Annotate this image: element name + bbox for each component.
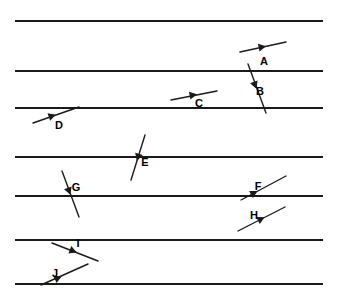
segment-label: I [76, 237, 79, 249]
segment-c: C [171, 91, 217, 109]
segment-label: B [256, 85, 264, 97]
direction-arrowhead-icon [49, 114, 55, 119]
segment-label: A [260, 55, 268, 67]
segment-d: D [33, 107, 79, 131]
segment-label: E [141, 156, 148, 168]
segment-line [41, 264, 88, 285]
direction-arrowhead-icon [69, 247, 75, 252]
direction-arrowhead-icon [257, 218, 263, 223]
direction-arrowhead-icon [259, 45, 265, 51]
segment-label: J [52, 267, 58, 279]
direction-arrowhead-icon [65, 187, 70, 193]
figure-canvas: ABCDEFGHIJ [0, 0, 339, 300]
segment-j: J [41, 264, 88, 285]
geometry-figure: ABCDEFGHIJ [0, 0, 339, 300]
segment-label: C [195, 97, 203, 109]
segment-label: G [72, 181, 81, 193]
segment-label: H [250, 209, 258, 221]
segment-label: F [255, 180, 262, 192]
segment-g: G [62, 171, 80, 217]
segment-a: A [240, 42, 286, 67]
segment-h: H [238, 207, 285, 231]
segment-label: D [55, 119, 63, 131]
labeled-segments-group: ABCDEFGHIJ [33, 42, 286, 285]
parallel-lines-group [15, 21, 323, 284]
